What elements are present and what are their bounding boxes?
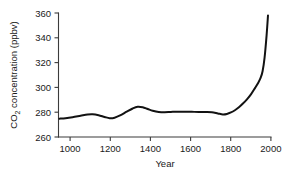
- y-axis-title-rest: concentration (ppbv): [8, 21, 19, 110]
- x-tick-label-1400: 1400: [140, 143, 161, 154]
- y-tick-label-280: 280: [35, 107, 51, 118]
- y-axis-title: CO2 concentration (ppbv): [8, 21, 21, 128]
- y-axis-title-prefix: CO: [8, 114, 19, 128]
- y-tick-label-340: 340: [35, 32, 51, 43]
- x-tick-label-1200: 1200: [100, 143, 121, 154]
- y-tick-label-300: 300: [35, 82, 51, 93]
- x-tick-label-2000: 2000: [260, 143, 281, 154]
- chart-canvas: 360 340 320 300 280 260 1000 1200 1400 1…: [0, 0, 282, 175]
- svg-text:CO2 concentration (ppbv): CO2 concentration (ppbv): [8, 21, 21, 128]
- x-tick-label-1800: 1800: [220, 143, 241, 154]
- co2-concentration-chart: 360 340 320 300 280 260 1000 1200 1400 1…: [0, 0, 282, 175]
- x-axis-title: Year: [155, 158, 174, 169]
- co2-line-series: [60, 15, 268, 118]
- y-tick-label-320: 320: [35, 57, 51, 68]
- x-tick-label-1000: 1000: [60, 143, 81, 154]
- y-axis-ticks: [55, 13, 59, 137]
- y-tick-label-260: 260: [35, 132, 51, 143]
- x-tick-label-1600: 1600: [180, 143, 201, 154]
- x-axis-ticks: [70, 137, 271, 141]
- y-tick-label-360: 360: [35, 8, 51, 19]
